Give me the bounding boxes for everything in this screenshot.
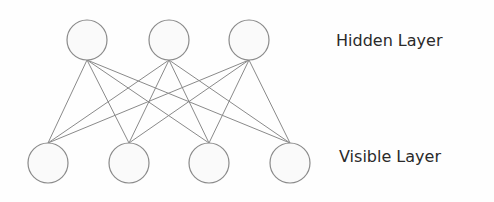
hidden-node-1 (67, 20, 107, 60)
nodes (28, 20, 310, 183)
edge-h3-v2 (129, 60, 249, 143)
visible-node-4 (270, 143, 310, 183)
hidden-node-3 (229, 20, 269, 60)
edge-h3-v3 (209, 60, 249, 143)
edge-h3-v1 (48, 60, 249, 143)
connections (48, 60, 290, 143)
hidden-layer-label: Hidden Layer (336, 31, 442, 50)
hidden-node-2 (149, 20, 189, 60)
visible-node-3 (189, 143, 229, 183)
visible-node-1 (28, 143, 68, 183)
visible-node-2 (109, 143, 149, 183)
visible-layer-label: Visible Layer (339, 147, 441, 166)
edge-h2-v1 (48, 60, 169, 143)
edge-h1-v1 (48, 60, 87, 143)
edge-h3-v4 (249, 60, 290, 143)
